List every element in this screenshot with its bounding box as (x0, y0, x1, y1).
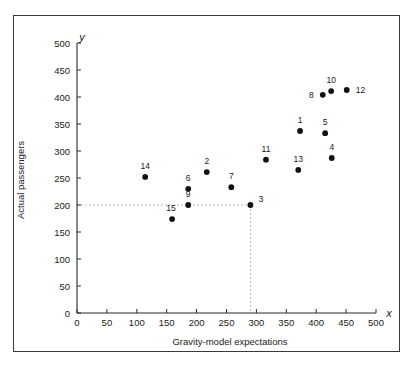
y-tick-label: 50 (59, 281, 70, 292)
data-point-label: 8 (309, 90, 314, 100)
y-tick-label: 150 (54, 227, 70, 238)
data-point (204, 169, 210, 175)
x-tick-label: 450 (338, 317, 354, 328)
data-point-label: 15 (166, 203, 176, 213)
y-tick-label: 0 (65, 308, 70, 319)
data-point-label: 2 (204, 156, 209, 166)
data-point (142, 174, 148, 180)
x-tick-label: 0 (74, 317, 79, 328)
y-tick-label: 200 (54, 200, 70, 211)
y-tick-label: 250 (54, 173, 70, 184)
data-point-label: 5 (323, 117, 328, 127)
data-point-label: 11 (262, 144, 271, 154)
y-tick-label: 450 (54, 65, 70, 76)
data-point (169, 216, 175, 222)
guide-lines (77, 205, 250, 313)
y-tick-label: 350 (54, 119, 70, 130)
data-points: 141569273111314581012 (140, 75, 365, 222)
data-point-label: 13 (294, 154, 304, 164)
y-tick-label: 400 (54, 92, 70, 103)
data-point-label: 10 (326, 75, 336, 85)
data-point (320, 92, 326, 98)
x-tick-label: 100 (129, 317, 145, 328)
x-tick-label: 150 (159, 317, 175, 328)
x-tick-label: 500 (368, 317, 384, 328)
data-point-label: 14 (140, 161, 150, 171)
y-tick-label: 500 (54, 38, 70, 49)
data-point (263, 157, 269, 163)
scatter-plot: 050100150200250300350400450500 050100150… (0, 0, 416, 373)
data-point (297, 128, 303, 134)
data-point (329, 155, 335, 161)
x-tick-label: 250 (219, 317, 235, 328)
x-axis-label: Gravity-model expectations (172, 336, 287, 347)
y-axis-variable-symbol: y (78, 31, 86, 43)
data-point (185, 202, 191, 208)
data-point (228, 184, 234, 190)
data-point-label: 12 (356, 85, 366, 95)
data-point-label: 1 (298, 115, 303, 125)
data-point-label: 6 (186, 173, 191, 183)
x-tick-label: 200 (189, 317, 205, 328)
data-point-label: 3 (258, 194, 263, 204)
y-tick-label: 100 (54, 254, 70, 265)
data-point-label: 4 (329, 142, 334, 152)
x-axis-ticks: 050100150200250300350400450500 (74, 309, 384, 328)
x-tick-label: 400 (308, 317, 324, 328)
y-axis-label: Actual passengers (15, 141, 26, 219)
data-point (344, 87, 350, 93)
x-tick-label: 300 (248, 317, 264, 328)
x-axis-variable-symbol: x (385, 307, 392, 319)
data-point (295, 167, 301, 173)
data-point-label: 9 (186, 189, 191, 199)
data-point-label: 7 (229, 171, 234, 181)
data-point (322, 130, 328, 136)
y-tick-label: 300 (54, 146, 70, 157)
data-point (248, 202, 254, 208)
x-tick-label: 50 (102, 317, 113, 328)
data-point (328, 88, 334, 94)
x-tick-label: 350 (278, 317, 294, 328)
